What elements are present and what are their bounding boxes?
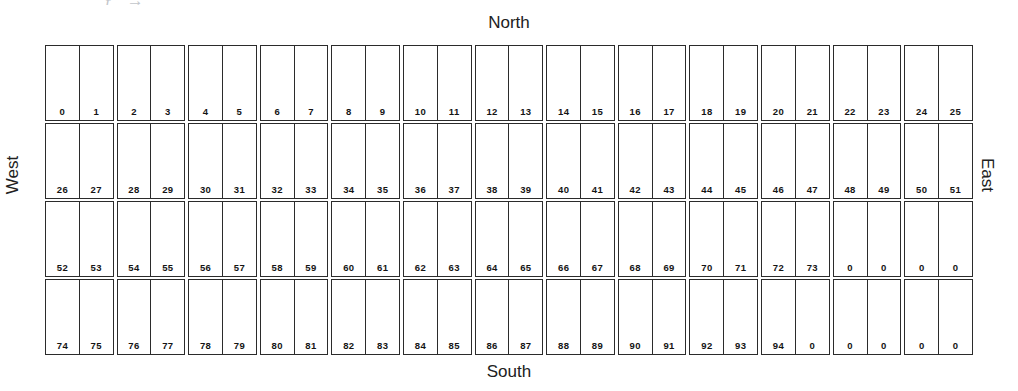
bay-cell[interactable]: 53: [79, 202, 113, 276]
bay-cell[interactable]: 8: [332, 46, 365, 120]
bay-cell[interactable]: 20: [762, 46, 795, 120]
bay-cell[interactable]: 72: [762, 202, 795, 276]
bay-cell[interactable]: 63: [437, 202, 471, 276]
bay-cell[interactable]: 61: [365, 202, 399, 276]
bay-cell[interactable]: 41: [580, 124, 614, 198]
bay-cell[interactable]: 0: [938, 202, 972, 276]
bay-cell[interactable]: 81: [294, 280, 328, 354]
bay-cell[interactable]: 68: [619, 202, 652, 276]
bay-cell[interactable]: 10: [404, 46, 437, 120]
bay-cell[interactable]: 38: [476, 124, 509, 198]
bay-cell[interactable]: 24: [905, 46, 938, 120]
bay-cell[interactable]: 6: [261, 46, 294, 120]
bay-cell[interactable]: 94: [762, 280, 795, 354]
bay-cell[interactable]: 62: [404, 202, 437, 276]
bay-cell[interactable]: 45: [723, 124, 757, 198]
bay-cell[interactable]: 43: [652, 124, 686, 198]
bay-cell[interactable]: 56: [189, 202, 222, 276]
bay-cell[interactable]: 60: [332, 202, 365, 276]
bay-cell[interactable]: 19: [723, 46, 757, 120]
bay-cell[interactable]: 71: [723, 202, 757, 276]
bay-cell[interactable]: 42: [619, 124, 652, 198]
bay-cell[interactable]: 88: [547, 280, 580, 354]
bay-cell[interactable]: 67: [580, 202, 614, 276]
bay-cell[interactable]: 21: [795, 46, 829, 120]
bay-cell[interactable]: 30: [189, 124, 222, 198]
bay-cell[interactable]: 14: [547, 46, 580, 120]
bay-cell[interactable]: 28: [118, 124, 151, 198]
bay-cell[interactable]: 3: [150, 46, 184, 120]
bay-cell[interactable]: 76: [118, 280, 151, 354]
bay-cell[interactable]: 0: [905, 280, 938, 354]
bay-cell[interactable]: 55: [150, 202, 184, 276]
bay-cell[interactable]: 49: [867, 124, 901, 198]
bay-cell[interactable]: 58: [261, 202, 294, 276]
bay-cell[interactable]: 87: [508, 280, 542, 354]
bay-cell[interactable]: 32: [261, 124, 294, 198]
bay-cell[interactable]: 0: [938, 280, 972, 354]
bay-cell[interactable]: 26: [46, 124, 79, 198]
bay-cell[interactable]: 65: [508, 202, 542, 276]
bay-cell[interactable]: 18: [690, 46, 723, 120]
bay-cell[interactable]: 36: [404, 124, 437, 198]
bay-cell[interactable]: 31: [222, 124, 256, 198]
bay-cell[interactable]: 48: [834, 124, 867, 198]
bay-cell[interactable]: 0: [46, 46, 79, 120]
bay-cell[interactable]: 16: [619, 46, 652, 120]
bay-cell[interactable]: 1: [79, 46, 113, 120]
bay-cell[interactable]: 50: [905, 124, 938, 198]
bay-cell[interactable]: 29: [150, 124, 184, 198]
bay-cell[interactable]: 69: [652, 202, 686, 276]
bay-cell[interactable]: 70: [690, 202, 723, 276]
bay-cell[interactable]: 11: [437, 46, 471, 120]
bay-cell[interactable]: 0: [834, 202, 867, 276]
bay-cell[interactable]: 91: [652, 280, 686, 354]
bay-cell[interactable]: 0: [905, 202, 938, 276]
bay-cell[interactable]: 57: [222, 202, 256, 276]
bay-cell[interactable]: 86: [476, 280, 509, 354]
bay-cell[interactable]: 40: [547, 124, 580, 198]
bay-cell[interactable]: 13: [508, 46, 542, 120]
bay-cell[interactable]: 64: [476, 202, 509, 276]
bay-cell[interactable]: 92: [690, 280, 723, 354]
bay-cell[interactable]: 12: [476, 46, 509, 120]
bay-cell[interactable]: 73: [795, 202, 829, 276]
bay-cell[interactable]: 75: [79, 280, 113, 354]
bay-cell[interactable]: 4: [189, 46, 222, 120]
bay-cell[interactable]: 39: [508, 124, 542, 198]
bay-cell[interactable]: 54: [118, 202, 151, 276]
bay-cell[interactable]: 85: [437, 280, 471, 354]
bay-cell[interactable]: 52: [46, 202, 79, 276]
bay-cell[interactable]: 78: [189, 280, 222, 354]
bay-cell[interactable]: 44: [690, 124, 723, 198]
bay-cell[interactable]: 66: [547, 202, 580, 276]
bay-cell[interactable]: 25: [938, 46, 972, 120]
bay-cell[interactable]: 46: [762, 124, 795, 198]
bay-cell[interactable]: 7: [294, 46, 328, 120]
bay-cell[interactable]: 80: [261, 280, 294, 354]
bay-cell[interactable]: 82: [332, 280, 365, 354]
bay-cell[interactable]: 0: [795, 280, 829, 354]
bay-cell[interactable]: 89: [580, 280, 614, 354]
bay-cell[interactable]: 9: [365, 46, 399, 120]
bay-cell[interactable]: 27: [79, 124, 113, 198]
bay-cell[interactable]: 0: [867, 280, 901, 354]
bay-cell[interactable]: 79: [222, 280, 256, 354]
bay-cell[interactable]: 22: [834, 46, 867, 120]
bay-cell[interactable]: 51: [938, 124, 972, 198]
bay-cell[interactable]: 23: [867, 46, 901, 120]
bay-cell[interactable]: 0: [867, 202, 901, 276]
bay-cell[interactable]: 59: [294, 202, 328, 276]
bay-cell[interactable]: 84: [404, 280, 437, 354]
bay-cell[interactable]: 0: [834, 280, 867, 354]
bay-cell[interactable]: 77: [150, 280, 184, 354]
bay-cell[interactable]: 83: [365, 280, 399, 354]
bay-cell[interactable]: 35: [365, 124, 399, 198]
bay-cell[interactable]: 74: [46, 280, 79, 354]
bay-cell[interactable]: 90: [619, 280, 652, 354]
bay-cell[interactable]: 2: [118, 46, 151, 120]
bay-cell[interactable]: 93: [723, 280, 757, 354]
bay-cell[interactable]: 37: [437, 124, 471, 198]
bay-cell[interactable]: 47: [795, 124, 829, 198]
bay-cell[interactable]: 33: [294, 124, 328, 198]
